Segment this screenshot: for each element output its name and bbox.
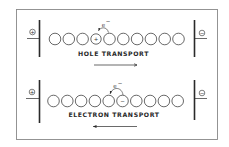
hole-charge-symbol: + [94, 36, 99, 42]
right-electrode-cathode: − [195, 80, 208, 120]
electron-charge-symbol: − [120, 98, 125, 104]
minus-symbol: − [200, 30, 205, 36]
site-7 [131, 95, 143, 107]
site-8 [144, 95, 156, 107]
site-9 [158, 95, 170, 107]
site-10 [172, 95, 184, 107]
minus-symbol: − [200, 90, 205, 96]
site-1 [48, 95, 60, 107]
plus-symbol: + [30, 29, 35, 35]
site-row [48, 95, 184, 107]
site-6 [118, 33, 130, 45]
hole-transport-panel: + − + e − HOLE TRANSPORT [27, 18, 207, 65]
diagram-frame [17, 10, 218, 140]
site-7 [131, 33, 143, 45]
site-9 [159, 33, 171, 45]
site-8 [145, 33, 157, 45]
left-electrode-anode: + [27, 20, 40, 57]
right-electrode-cathode: − [195, 20, 208, 57]
electron-transport-panel: + − − e − ELECTRON TRANSPORT [26, 80, 207, 127]
site-4 [89, 95, 101, 107]
site-10 [173, 33, 185, 45]
site-2 [62, 95, 74, 107]
site-2 [63, 33, 75, 45]
site-3 [75, 95, 87, 107]
hole-transport-label: HOLE TRANSPORT [78, 50, 149, 57]
electron-hop-arrow [99, 28, 109, 33]
electron-label-superscript: − [118, 80, 123, 86]
electron-transport-label: ELECTRON TRANSPORT [68, 111, 159, 118]
site-1 [49, 33, 61, 45]
site-5 [103, 95, 115, 107]
site-5 [104, 33, 116, 45]
plus-symbol: + [30, 89, 35, 95]
site-3 [77, 33, 89, 45]
left-electrode-anode: + [26, 80, 40, 123]
site-row [49, 33, 184, 45]
electron-label-superscript: − [106, 18, 111, 24]
charge-transport-diagram: + − + e − HOLE TRANSPORT [0, 0, 229, 147]
electron-hop-arrow [110, 88, 123, 95]
